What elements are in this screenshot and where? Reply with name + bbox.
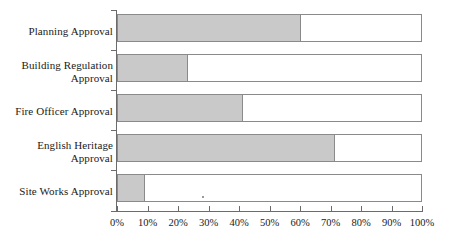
bar-fill [118, 55, 188, 81]
bar-row [117, 14, 422, 42]
category-label-line: Approval [0, 152, 113, 165]
value-tick-label: 100% [400, 216, 444, 229]
bar-fill [118, 135, 335, 161]
bar-row [117, 134, 422, 162]
category-label-line: Planning Approval [0, 25, 113, 38]
value-tick [300, 206, 301, 212]
value-tick [117, 206, 118, 212]
bar-fill [118, 95, 243, 121]
category-label-line: Fire Officer Approval [0, 105, 113, 118]
category-label-english-heritage-approval: English Heritage Approval [0, 139, 113, 164]
value-tick [209, 206, 210, 212]
value-tick [270, 206, 271, 212]
bar-fill [118, 175, 145, 201]
bar-row [117, 54, 422, 82]
value-tick [239, 206, 240, 212]
value-tick [331, 206, 332, 212]
bar-chart: Planning Approval Building Regulation Ap… [0, 0, 456, 245]
category-label-line: Building Regulation [0, 59, 113, 72]
value-tick [392, 206, 393, 212]
category-label-line: English Heritage [0, 139, 113, 152]
value-tick [361, 206, 362, 212]
category-label-line: Site Works Approval [0, 185, 113, 198]
value-tick [148, 206, 149, 212]
raster-speck [202, 196, 204, 198]
category-label-building-regulation-approval: Building Regulation Approval [0, 59, 113, 84]
bar-fill [118, 15, 301, 41]
category-label-fire-officer-approval: Fire Officer Approval [0, 105, 113, 118]
bar-row [117, 94, 422, 122]
bar-row [117, 174, 422, 202]
value-tick [422, 206, 423, 212]
category-label-site-works-approval: Site Works Approval [0, 185, 113, 198]
category-label-planning-approval: Planning Approval [0, 25, 113, 38]
value-tick [178, 206, 179, 212]
plot-area [117, 10, 422, 210]
category-label-line: Approval [0, 72, 113, 85]
